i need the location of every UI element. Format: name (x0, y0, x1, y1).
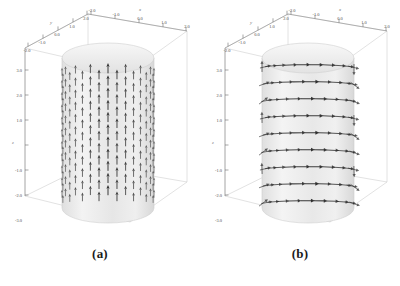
z-tick-label: 3.0 (17, 68, 23, 73)
axis-label-z: z (211, 140, 214, 145)
axis-label-x: x (138, 7, 142, 12)
z-tick-label: -3.0 (15, 218, 23, 223)
z-tick-label: -2.0 (215, 193, 223, 198)
z-tick-label: -3.0 (215, 218, 223, 223)
z-tick-label: 3.0 (217, 68, 223, 73)
y-tick-label: 1.0 (69, 24, 75, 29)
axis-label-y: y (49, 20, 53, 25)
axis-label-z: z (11, 140, 14, 145)
z-tick-label: 1.0 (217, 118, 223, 123)
y-tick-label: -1.0 (39, 40, 47, 45)
z-tick-label: 2.0 (17, 93, 23, 98)
x-tick-label: 2.0 (384, 24, 390, 29)
y-tick-label: 0.0 (54, 32, 60, 37)
plot-a: 3.0 2.0 1.0 -1.0 -2.0 -3.0 z (0, 0, 200, 243)
plot-a-svg: 3.0 2.0 1.0 -1.0 -2.0 -3.0 z (0, 0, 200, 243)
panel-b: 3.0 2.0 1.0 -1.0 -2.0 -3.0 z (200, 0, 400, 286)
z-tick-label: 1.0 (17, 118, 23, 123)
y-tick-label: 2.0 (283, 16, 289, 21)
x-tick-label: 0.0 (137, 16, 143, 21)
axis-x-a: -2.0 -1.0 0.0 1.0 2.0 x (88, 7, 191, 31)
axis-label-x: x (338, 7, 342, 12)
y-tick-label: -2.0 (24, 48, 32, 53)
axis-x-b: -2.0 -1.0 0.0 1.0 2.0 x (288, 7, 391, 31)
y-tick-label: 2.0 (83, 16, 89, 21)
x-tick-label: -2.0 (89, 8, 97, 13)
y-tick-label: 1.0 (269, 24, 275, 29)
z-tick-label: 2.0 (217, 93, 223, 98)
x-tick-label: -1.0 (313, 12, 321, 17)
x-tick-label: 2.0 (184, 24, 190, 29)
plot-b: 3.0 2.0 1.0 -1.0 -2.0 -3.0 z (200, 0, 400, 243)
panel-a: 3.0 2.0 1.0 -1.0 -2.0 -3.0 z (0, 0, 200, 286)
z-tick-label: -1.0 (215, 168, 223, 173)
axis-label-y: y (249, 20, 253, 25)
x-tick-label: 1.0 (161, 20, 167, 25)
y-tick-label: -2.0 (224, 48, 232, 53)
x-tick-label: 0.0 (337, 16, 343, 21)
y-tick-label: -1.0 (239, 40, 247, 45)
x-tick-label: -2.0 (289, 8, 297, 13)
z-tick-label: -2.0 (15, 193, 23, 198)
x-tick-label: -1.0 (113, 12, 121, 17)
plot-b-svg: 3.0 2.0 1.0 -1.0 -2.0 -3.0 z (200, 0, 400, 243)
z-tick-label: -1.0 (15, 168, 23, 173)
y-tick-label: 0.0 (254, 32, 260, 37)
figure-container: 3.0 2.0 1.0 -1.0 -2.0 -3.0 z (0, 0, 400, 286)
caption-b: (b) (200, 246, 400, 262)
caption-a: (a) (0, 246, 200, 262)
x-tick-label: 1.0 (361, 20, 367, 25)
